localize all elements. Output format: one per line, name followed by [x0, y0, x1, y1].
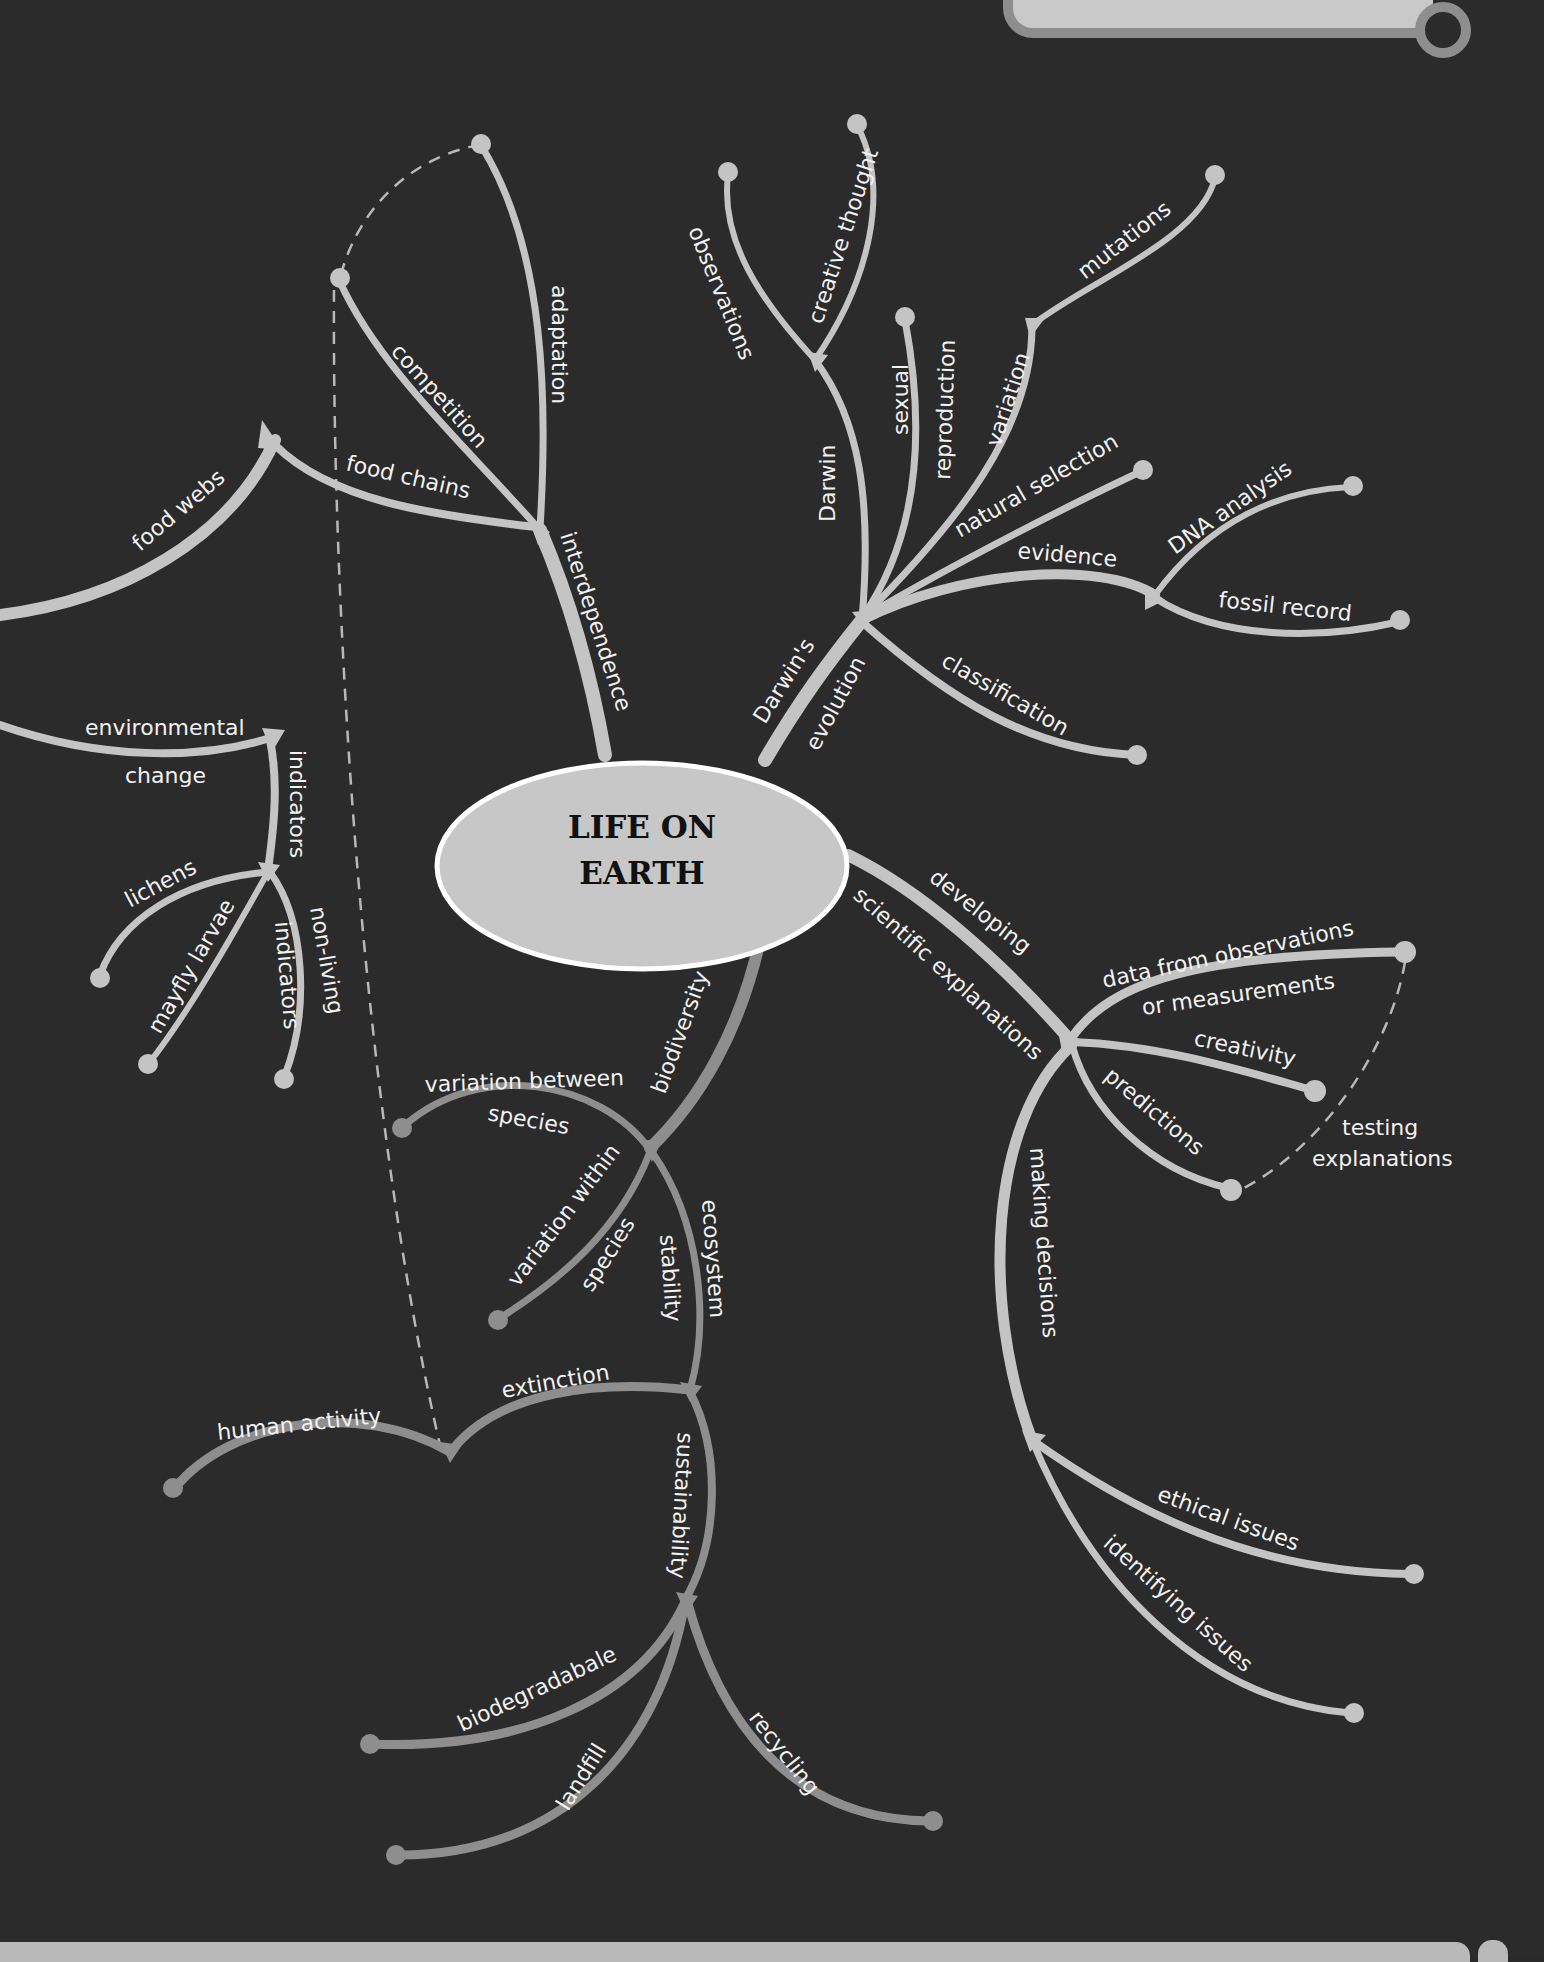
label-reproduction: reproduction	[930, 339, 960, 480]
label-human-activity: human activity	[216, 1403, 383, 1445]
node-end-adaptation	[471, 134, 491, 154]
label-evidence: evidence	[1017, 538, 1119, 572]
label-mayfly-larvae: mayfly larvae	[143, 895, 240, 1038]
central-node: LIFE ON EARTH	[437, 763, 847, 969]
label-food-webs: food webs	[127, 464, 229, 556]
label-indicators: indicators	[285, 750, 310, 858]
label-competition: competition	[386, 339, 492, 453]
label-change: change	[125, 763, 206, 788]
node-end-biodegradable	[360, 1734, 380, 1754]
node-end-non-living-indicators	[274, 1069, 294, 1089]
node-end-identifying-issues	[1344, 1703, 1364, 1723]
central-title-line1: LIFE ON	[568, 809, 716, 845]
branch-evidence	[862, 574, 1155, 620]
label-sustainability: sustainability	[665, 1432, 698, 1580]
node-end-fossil-record	[1390, 610, 1410, 630]
label-adaptation: adaptation	[547, 285, 572, 404]
node-end-dna-analysis	[1343, 476, 1363, 496]
label-dna-analysis: DNA analysis	[1164, 456, 1297, 559]
branch-indicators	[268, 740, 275, 870]
label-testing: testing	[1342, 1115, 1418, 1140]
label-evolution: evolution	[800, 652, 870, 754]
node-end-mutations	[1205, 165, 1225, 185]
node-end-predictions	[1220, 1179, 1242, 1201]
node-end-observations	[718, 162, 738, 182]
label-recycling: recycling	[744, 1706, 825, 1800]
node-end-creative-thought	[847, 114, 867, 134]
node-end-data-observations	[1394, 941, 1416, 963]
branch-identifying-issues	[1032, 1440, 1350, 1713]
label-making-decisions: making decisions	[1025, 1147, 1063, 1339]
branch-adaptation	[482, 147, 543, 528]
node-end-mayfly-larvae	[138, 1054, 158, 1074]
label-variation: variation	[981, 349, 1035, 449]
node-end-natural-selection	[1133, 460, 1153, 480]
label-scientific-explanations: scientific explanations	[849, 882, 1048, 1065]
label-fossil-record: fossil record	[1217, 587, 1353, 626]
node-end-classification	[1127, 745, 1147, 765]
node-end-variation-between	[392, 1118, 412, 1138]
arrow-food-webs	[258, 420, 282, 450]
node-end-variation-within	[488, 1310, 508, 1330]
node-end-human-activity	[163, 1478, 183, 1498]
label-variation-between-species: species	[486, 1100, 571, 1139]
node-end-recycling	[923, 1811, 943, 1831]
label-environmental: environmental	[85, 715, 245, 740]
label-variation-between: variation between	[424, 1065, 624, 1097]
label-stability: stability	[655, 1234, 686, 1323]
central-title-line2: EARTH	[579, 855, 704, 891]
node-end-competition	[330, 268, 350, 288]
label-sexual: sexual	[888, 364, 913, 435]
label-non-living: non-living	[305, 905, 348, 1016]
label-observations: observations	[683, 223, 759, 364]
node-end-ethical-issues	[1404, 1564, 1424, 1584]
dashed-link-adaptation-competition	[340, 145, 480, 278]
branch-landfill	[400, 1602, 685, 1855]
label-darwin: Darwin	[815, 444, 840, 522]
label-identifying-issues: identifying issues	[1099, 1530, 1258, 1677]
node-end-lichens	[90, 968, 110, 988]
node-end-sexual-reproduction	[895, 307, 915, 327]
node-end-creativity	[1304, 1080, 1326, 1102]
node-end-landfill	[386, 1845, 406, 1865]
label-explanations: explanations	[1312, 1146, 1453, 1171]
label-predictions: predictions	[1100, 1063, 1209, 1160]
branch-extinction	[452, 1387, 690, 1450]
